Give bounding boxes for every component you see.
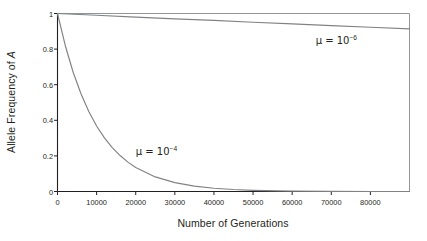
x-tick-label-2: 20000	[125, 198, 146, 207]
y-tick-label-4: 0.8	[43, 45, 53, 54]
y-axis-title-text: Allele Frequency of	[5, 58, 17, 153]
x-axis-title: Number of Generations	[57, 217, 409, 229]
y-axis-title: Allele Frequency of A	[5, 22, 17, 182]
y-axis-title-allele: A	[5, 51, 17, 58]
x-tick-label-7: 70000	[321, 198, 342, 207]
annotation-exponent-mu-1e-4: −4	[170, 145, 178, 152]
y-tick-label-5: 1	[49, 9, 53, 18]
x-tick-label-0: 0	[55, 198, 59, 207]
x-tick-label-6: 60000	[282, 198, 303, 207]
annotation-label-mu-1e-6: μ = 10	[316, 35, 350, 46]
y-tick-label-1: 0.2	[43, 151, 53, 160]
x-tick-label-5: 50000	[243, 198, 264, 207]
x-tick-label-1: 10000	[86, 198, 107, 207]
annotation-label-mu-1e-4: μ = 10	[136, 146, 170, 157]
annotation-exponent-mu-1e-6: −6	[349, 34, 357, 41]
x-tick-label-8: 80000	[360, 198, 381, 207]
x-tick-label-4: 40000	[204, 198, 225, 207]
y-tick-label-2: 0.4	[43, 116, 53, 125]
series-line-mu-10-6	[58, 14, 410, 29]
series-annotation-mu-1e-6: μ = 10−6	[316, 35, 357, 46]
chart-figure: Allele Frequency of A Number of Generati…	[0, 0, 427, 241]
series-annotation-mu-1e-4: μ = 10−4	[136, 146, 177, 157]
y-tick-label-0: 0	[49, 187, 53, 196]
x-tick-label-3: 30000	[165, 198, 186, 207]
y-tick-label-3: 0.6	[43, 80, 53, 89]
